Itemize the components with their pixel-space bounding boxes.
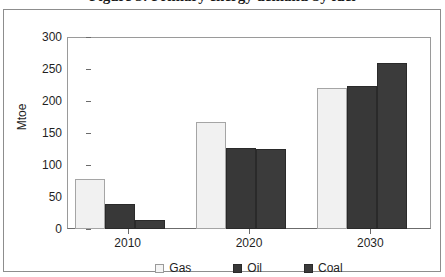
bars-layer [67,37,431,229]
bar-gas-2020[interactable] [196,122,226,229]
x-tick-label-2030: 2030 [325,236,415,250]
bar-oil-2020[interactable] [226,148,256,229]
legend-item-oil[interactable]: Oil [233,262,262,274]
y-tick-label: 0 [28,222,62,236]
x-tick-mark [128,229,129,234]
legend-label: Oil [247,262,262,274]
y-tick-label: 50 [28,190,62,204]
legend-label: Coal [318,262,343,274]
legend-swatch-coal [304,264,313,273]
bar-oil-2030[interactable] [347,86,377,229]
y-tick-label: 200 [28,94,62,108]
legend-swatch-oil [233,264,242,273]
y-axis: 050100150200250300 [28,29,62,237]
x-tick-label-2010: 2010 [83,236,173,250]
y-tick-label: 100 [28,158,62,172]
x-tick-mark [249,229,250,234]
bar-gas-2010[interactable] [75,179,105,229]
legend-item-coal[interactable]: Coal [304,262,343,274]
bar-coal-2010[interactable] [135,220,165,229]
y-tick-label: 250 [28,62,62,76]
legend-item-gas[interactable]: Gas [155,262,191,274]
bar-gas-2030[interactable] [317,88,347,229]
figure-title-clipped: Figure 3: Primary energy demand by fuel [0,0,445,4]
legend-swatch-gas [155,264,164,273]
x-tick-label-2020: 2020 [204,236,294,250]
y-tick-label: 150 [28,126,62,140]
bar-coal-2030[interactable] [377,63,407,229]
bar-coal-2020[interactable] [256,149,286,229]
chart-legend: GasOilCoal [67,259,431,277]
x-tick-mark [370,229,371,234]
figure-frame: 050100150200250300 Mtoe GasOilCoal 20102… [3,9,441,272]
y-tick-mark [86,229,91,230]
y-axis-title: Mtoe [15,87,29,147]
legend-label: Gas [169,262,191,274]
y-tick-label: 300 [28,30,62,44]
bar-oil-2010[interactable] [105,204,135,229]
